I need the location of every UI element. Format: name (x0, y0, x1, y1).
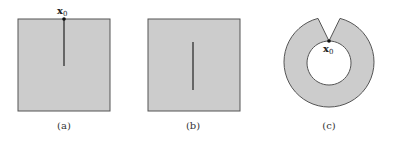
caption-b: (b) (186, 120, 200, 131)
panel-a: x0 (a) (18, 5, 110, 131)
caption-c: (c) (322, 120, 336, 131)
point-label-c: x0 (323, 43, 333, 56)
caption-a: (a) (57, 120, 71, 131)
point-label-a: x0 (57, 5, 67, 18)
panel-c: x0 (c) (284, 18, 374, 131)
panel-b: (b) (148, 19, 240, 131)
figure-canvas: x0 (a) (b) x0 (c) (0, 0, 395, 141)
notched-annulus (284, 18, 374, 107)
square-domain-b (148, 19, 240, 111)
